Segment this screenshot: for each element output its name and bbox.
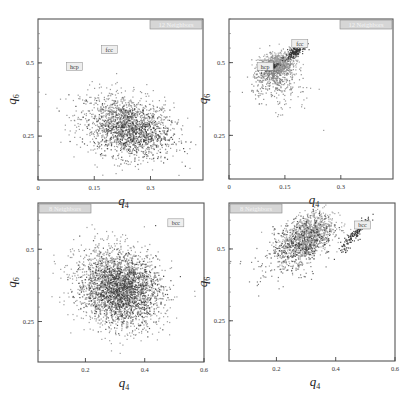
x-tick-label: 0.15 <box>279 183 290 190</box>
x-tick-label: 0.3 <box>146 184 154 191</box>
x-tick-label: 0.6 <box>200 366 209 373</box>
y-tick-label: 0.25 <box>23 318 34 325</box>
x-tick-label: 0.15 <box>89 184 100 191</box>
x-axis-label: q4 <box>118 193 129 210</box>
y-tick-label: 0.5 <box>217 245 225 252</box>
panel-top-right: 00.150.30.250.5q4q612 Neighborsfcchcp <box>195 19 393 209</box>
panel-title: 12 Neighbors <box>158 21 194 28</box>
x-tick-label: 0.6 <box>391 365 400 372</box>
annotation-fcc: fcc <box>106 47 114 53</box>
annotation-bcc: bcc <box>172 220 181 226</box>
annotation-bcc: bcc <box>358 222 367 228</box>
y-axis-label: q6 <box>195 277 212 288</box>
panel-title: 12 Neighbors <box>348 21 384 28</box>
annotation-hcp: hcp <box>70 64 79 70</box>
panel-title: 8 Neighbors <box>49 205 81 212</box>
x-tick-label: 0 <box>227 183 230 190</box>
panel-title: 8 Neighbors <box>240 205 272 212</box>
scatter-points <box>45 73 201 176</box>
plot-frame <box>229 19 393 179</box>
x-tick-label: 0.4 <box>332 365 341 372</box>
scatter-points <box>242 40 325 131</box>
panel-bottom-right: 0.20.40.60.250.5q4q68 Neighborsbcc <box>195 203 400 391</box>
x-axis-label: q4 <box>310 374 321 391</box>
y-tick-label: 0.5 <box>26 59 34 66</box>
plot-frame <box>38 19 203 180</box>
scatter-points <box>51 224 195 354</box>
x-tick-label: 0.2 <box>272 365 280 372</box>
y-axis-label: q6 <box>4 277 21 288</box>
panel-top-left: 00.150.30.250.5q4q612 Neighborsfcchcp <box>4 19 203 210</box>
y-tick-label: 0.25 <box>23 132 34 139</box>
y-axis-label: q6 <box>4 94 21 105</box>
x-tick-label: 0.2 <box>81 366 89 373</box>
annotation-hcp: hcp <box>261 64 270 70</box>
panel-bottom-left: 0.20.40.60.250.5q4q68 Neighborsbcc <box>4 203 209 392</box>
y-axis-label: q6 <box>195 94 212 105</box>
x-tick-label: 0.4 <box>141 366 150 373</box>
y-tick-label: 0.25 <box>214 132 225 139</box>
x-axis-label: q4 <box>119 375 130 392</box>
y-tick-label: 0.5 <box>217 59 225 66</box>
x-tick-label: 0.3 <box>337 183 345 190</box>
figure: 00.150.30.250.5q4q612 Neighborsfcchcp 00… <box>0 0 419 399</box>
y-tick-label: 0.5 <box>26 246 34 253</box>
y-tick-label: 0.25 <box>214 317 225 324</box>
annotation-fcc: fcc <box>296 41 304 47</box>
x-tick-label: 0 <box>36 184 39 191</box>
scatter-points <box>230 205 374 297</box>
